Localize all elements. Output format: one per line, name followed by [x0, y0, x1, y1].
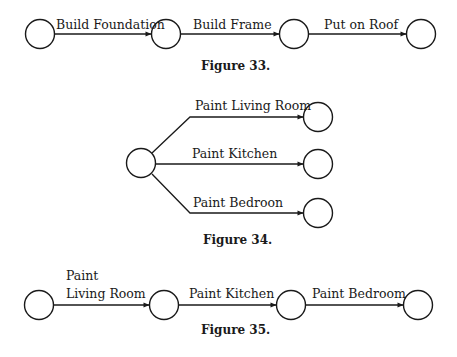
figure-caption: Figure 33.: [201, 59, 270, 73]
activity-network-diagrams: Build Foundation Build Frame Put on Roof…: [0, 0, 457, 357]
figure-caption: Figure 35.: [201, 323, 270, 337]
event-node-4: [407, 20, 436, 49]
figure-34: Paint Living Room Paint Kitchen Paint Be…: [127, 98, 333, 247]
figure-caption: Figure 34.: [203, 233, 272, 247]
event-node-4: [404, 291, 433, 320]
figure-35: Paint Living Room Paint Kitchen Paint Be…: [25, 268, 433, 337]
event-node-3: [280, 20, 309, 49]
end-node-bedroom: [304, 199, 333, 228]
label-paint-bedroom: Paint Bedroom: [312, 286, 406, 301]
event-node-1: [25, 291, 54, 320]
label-paint-living-room: Paint Living Room: [195, 98, 311, 113]
end-node-kitchen: [304, 150, 333, 179]
label-paint-kitchen: Paint Kitchen: [192, 146, 277, 161]
label-paint-bedroom: Paint Bedroon: [193, 195, 283, 210]
event-node-3: [277, 291, 306, 320]
label-build-frame: Build Frame: [193, 17, 272, 32]
event-node-1: [26, 20, 55, 49]
label-paint-living-room-line2: Living Room: [66, 286, 146, 301]
label-paint-kitchen: Paint Kitchen: [189, 286, 274, 301]
label-put-on-roof: Put on Roof: [324, 17, 399, 32]
label-build-foundation: Build Foundation: [56, 17, 165, 32]
event-node-2: [150, 291, 179, 320]
start-node: [127, 149, 156, 178]
label-paint-living-room-line1: Paint: [66, 268, 98, 283]
figure-33: Build Foundation Build Frame Put on Roof…: [26, 17, 436, 73]
